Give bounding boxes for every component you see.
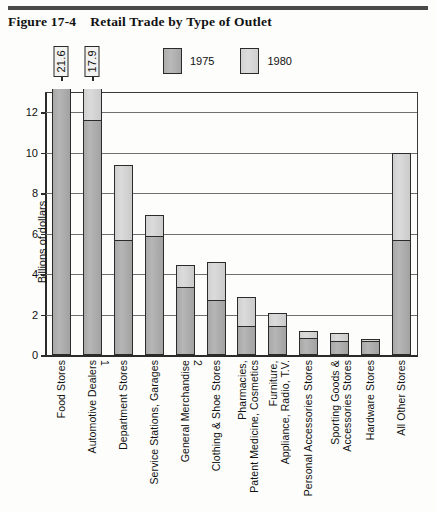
y-axis-tick [41,355,46,357]
x-axis-label: Furniture, Appliance, Radio, T.V. [268,360,291,464]
bar-personal-accessories-stores[interactable] [299,331,318,355]
bar-segment-1975 [52,84,71,355]
bar-segment-1975 [114,240,133,355]
bar-pharmacies-patent-medicine-cosmetics[interactable] [237,297,256,355]
plot-area: Billions of dollars 02468101221.617.9 [46,92,417,355]
bar-segment-1975 [392,240,411,355]
legend-label-1975: 1975 [190,55,214,67]
bar-value-label: 21.6 [54,46,69,77]
bar-segment-1975 [83,120,102,355]
x-axis-label: Automotive Dealers1 [87,360,110,453]
x-axis-label: General Merchandise2 [180,360,203,462]
legend-swatch-1975 [163,48,182,74]
y-axis-tick-label: 12 [26,106,38,118]
y-axis-tick [41,234,46,236]
bar-clothing-shoe-stores[interactable] [207,262,226,355]
y-axis-tick [41,112,46,114]
y-axis-tick [41,274,46,276]
x-axis-label: Department Stores [118,360,130,450]
bar-segment-1975 [176,287,195,355]
x-axis-labels: Food StoresAutomotive Dealers1Department… [46,360,417,510]
y-axis-tick-label: 0 [32,349,38,361]
figure-title: Figure 17-4Retail Trade by Type of Outle… [8,14,428,30]
y-axis-tick-label: 8 [32,187,38,199]
y-axis-tick-label: 10 [26,147,38,159]
bar-segment-1975 [299,338,318,355]
x-axis-label: Hardware Stores [365,360,377,440]
bar-segment-1975 [330,341,349,355]
y-axis-tick [41,193,46,195]
bar-segment-1975 [268,326,287,355]
y-axis-tick-label: 4 [32,268,38,280]
bar-sporting-goods-accessories-stores[interactable] [330,333,349,355]
bar-segment-1975 [145,236,164,355]
bar-automotive-dealers[interactable]: 17.9 [83,81,102,355]
bar-value-label: 17.9 [85,46,100,77]
bar-segment-1975 [237,326,256,355]
y-axis-tick-label: 2 [32,309,38,321]
figure-page: Figure 17-4Retail Trade by Type of Outle… [0,0,436,512]
bar-furniture-appliance-radio-t-v[interactable] [268,313,287,355]
bar-service-stations-garages[interactable] [145,215,164,355]
x-axis-label: Sporting Goods & Accessories Stores [330,360,353,452]
bar-food-stores[interactable]: 21.6 [52,81,71,355]
chart-legend: 1975 1980 [163,48,292,74]
bar-general-merchandise[interactable] [176,265,195,355]
legend-item-1975: 1975 [163,48,214,74]
bar-all-other-stores[interactable] [392,153,411,355]
legend-label-1980: 1980 [267,55,291,67]
top-rule [8,6,428,10]
x-axis-label: Food Stores [56,360,68,418]
bar-hardware-stores[interactable] [361,339,380,355]
x-axis-label: Service Stations, Garages [149,360,161,484]
legend-item-1980: 1980 [240,48,291,74]
x-axis-line [45,355,418,357]
x-axis-label: Personal Accessories Stores [303,360,315,496]
plot-frame-right [417,92,418,355]
x-axis-label: Clothing & Shoe Stores [211,360,223,471]
bar-segment-1975 [361,341,380,355]
legend-swatch-1980 [240,48,259,74]
bar-department-stores[interactable] [114,165,133,355]
bar-segment-1975 [207,300,226,355]
y-axis-tick [41,315,46,317]
x-axis-label: Pharmacies, Patent Medicine, Cosmetics [237,360,260,493]
figure-title-text: Retail Trade by Type of Outlet [90,14,272,29]
x-axis-label: All Other Stores [396,360,408,436]
y-axis-tick-label: 6 [32,228,38,240]
figure-number: Figure 17-4 [8,14,76,30]
y-axis-tick [41,153,46,155]
